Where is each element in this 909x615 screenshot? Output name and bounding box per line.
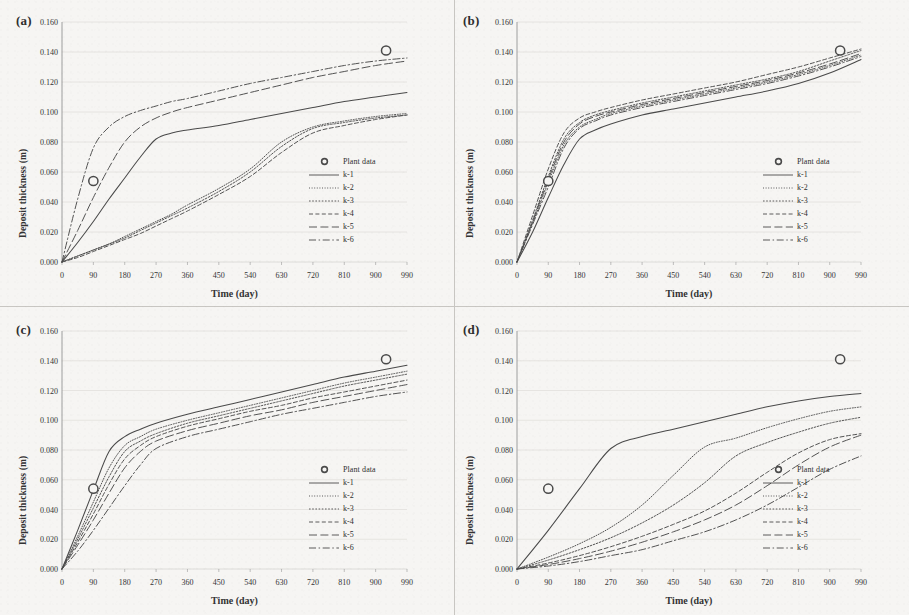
legend-label-k-2: k-2 xyxy=(797,491,808,500)
legend-entry-k-2: k-2 xyxy=(309,181,376,194)
legend-entry-k-3: k-3 xyxy=(309,502,376,515)
legend-label-k-5: k-5 xyxy=(343,530,354,539)
plot-area-a xyxy=(0,0,455,307)
legend-line-sample-k-3 xyxy=(309,504,339,514)
legend-entry-k-2: k-2 xyxy=(309,489,376,502)
legend-line-sample-k-5 xyxy=(763,530,793,540)
legend-entry-k-6: k-6 xyxy=(763,541,830,554)
legend-entry-k-5: k-5 xyxy=(309,220,376,233)
legend-label-k-3: k-3 xyxy=(797,504,808,513)
legend-entry-plant-data: Plant data xyxy=(763,463,830,476)
legend: Plant datak-1k-2k-3k-4k-5k-6 xyxy=(309,155,376,246)
legend-label-plant-data: Plant data xyxy=(797,157,830,166)
legend-label-k-4: k-4 xyxy=(797,209,808,218)
plant-data-marker xyxy=(544,484,553,493)
legend-label-k-4: k-4 xyxy=(797,517,808,526)
legend-label-k-2: k-2 xyxy=(797,183,808,192)
legend-entry-k-6: k-6 xyxy=(309,233,376,246)
legend-label-k-6: k-6 xyxy=(797,543,808,552)
plant-data-marker xyxy=(836,46,845,55)
plant-data-marker-icon xyxy=(763,465,793,475)
legend: Plant datak-1k-2k-3k-4k-5k-6 xyxy=(763,463,830,554)
legend-line-sample-k-2 xyxy=(763,491,793,501)
legend-label-k-5: k-5 xyxy=(797,222,808,231)
plant-data-marker xyxy=(381,355,390,364)
legend-label-k-1: k-1 xyxy=(343,478,354,487)
legend-line-sample-k-6 xyxy=(763,543,793,553)
legend-line-sample-k-4 xyxy=(309,517,339,527)
legend-entry-k-5: k-5 xyxy=(309,528,376,541)
legend-entry-plant-data: Plant data xyxy=(763,155,830,168)
plant-data-marker-icon xyxy=(309,465,339,475)
legend-entry-k-4: k-4 xyxy=(309,515,376,528)
plant-data-marker xyxy=(544,176,553,185)
legend-label-k-3: k-3 xyxy=(343,504,354,513)
legend-label-k-2: k-2 xyxy=(343,183,354,192)
plot-area-d xyxy=(455,307,909,615)
legend-entry-k-1: k-1 xyxy=(763,168,830,181)
legend-entry-k-4: k-4 xyxy=(763,515,830,528)
legend-label-k-2: k-2 xyxy=(343,491,354,500)
plot-area-c xyxy=(0,307,455,615)
legend-line-sample-k-5 xyxy=(309,222,339,232)
legend-line-sample-k-1 xyxy=(763,478,793,488)
legend-line-sample-k-4 xyxy=(763,517,793,527)
legend-label-k-1: k-1 xyxy=(797,478,808,487)
legend-entry-k-3: k-3 xyxy=(763,502,830,515)
legend-entry-k-3: k-3 xyxy=(309,194,376,207)
legend-line-sample-k-4 xyxy=(309,209,339,219)
legend-entry-k-6: k-6 xyxy=(763,233,830,246)
legend-line-sample-k-5 xyxy=(309,530,339,540)
chart-panel-a: (a)Deposit thickness (m)Time (day)0.0000… xyxy=(0,0,455,307)
legend-label-k-4: k-4 xyxy=(343,209,354,218)
legend-entry-plant-data: Plant data xyxy=(309,463,376,476)
plant-data-marker-icon xyxy=(763,157,793,167)
plant-data-marker xyxy=(836,355,845,364)
legend-line-sample-k-6 xyxy=(309,235,339,245)
legend-entry-k-1: k-1 xyxy=(309,168,376,181)
legend-line-sample-k-2 xyxy=(309,491,339,501)
legend-label-k-6: k-6 xyxy=(343,235,354,244)
legend-label-k-5: k-5 xyxy=(343,222,354,231)
legend-entry-k-4: k-4 xyxy=(763,207,830,220)
legend-label-k-1: k-1 xyxy=(797,170,808,179)
legend-label-k-1: k-1 xyxy=(343,170,354,179)
legend-line-sample-k-2 xyxy=(763,183,793,193)
legend-entry-k-6: k-6 xyxy=(309,541,376,554)
legend-line-sample-k-3 xyxy=(763,196,793,206)
legend-label-plant-data: Plant data xyxy=(797,465,830,474)
chart-panel-d: (d)Deposit thickness (m)Time (day)0.0000… xyxy=(455,307,909,615)
legend-line-sample-k-3 xyxy=(309,196,339,206)
plant-data-marker xyxy=(381,46,390,55)
legend-entry-k-3: k-3 xyxy=(763,194,830,207)
plant-data-marker-icon xyxy=(309,157,339,167)
legend-entry-k-5: k-5 xyxy=(763,528,830,541)
chart-panel-b: (b)Deposit thickness (m)Time (day)0.0000… xyxy=(455,0,909,307)
legend: Plant datak-1k-2k-3k-4k-5k-6 xyxy=(763,155,830,246)
legend-label-k-5: k-5 xyxy=(797,530,808,539)
plot-area-b xyxy=(455,0,909,307)
plant-data-marker xyxy=(89,484,98,493)
legend-line-sample-k-4 xyxy=(763,209,793,219)
chart-panel-c: (c)Deposit thickness (m)Time (day)0.0000… xyxy=(0,307,455,615)
legend-line-sample-k-6 xyxy=(309,543,339,553)
legend-label-k-3: k-3 xyxy=(343,196,354,205)
legend-line-sample-k-1 xyxy=(309,170,339,180)
legend-entry-k-5: k-5 xyxy=(763,220,830,233)
legend: Plant datak-1k-2k-3k-4k-5k-6 xyxy=(309,463,376,554)
legend-entry-k-2: k-2 xyxy=(763,181,830,194)
legend-entry-plant-data: Plant data xyxy=(309,155,376,168)
legend-entry-k-2: k-2 xyxy=(763,489,830,502)
legend-entry-k-1: k-1 xyxy=(309,476,376,489)
legend-line-sample-k-1 xyxy=(309,478,339,488)
legend-line-sample-k-3 xyxy=(763,504,793,514)
legend-line-sample-k-1 xyxy=(763,170,793,180)
legend-label-plant-data: Plant data xyxy=(343,465,376,474)
legend-entry-k-1: k-1 xyxy=(763,476,830,489)
figure-four-panel-chart: (a)Deposit thickness (m)Time (day)0.0000… xyxy=(0,0,909,615)
legend-label-k-6: k-6 xyxy=(797,235,808,244)
legend-label-k-4: k-4 xyxy=(343,517,354,526)
legend-line-sample-k-2 xyxy=(309,183,339,193)
legend-entry-k-4: k-4 xyxy=(309,207,376,220)
plant-data-marker xyxy=(89,176,98,185)
